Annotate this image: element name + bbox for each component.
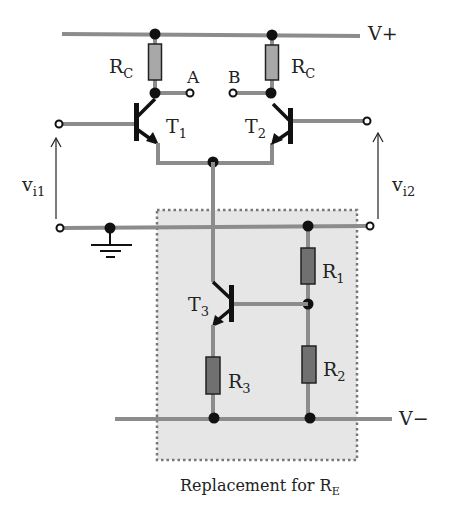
positive-rail (62, 34, 360, 36)
node-dot (266, 88, 277, 99)
label-t3: T3 (188, 295, 209, 318)
label-vi1: vi1 (22, 175, 45, 198)
resistor-rc-left (149, 44, 162, 80)
replacement-box (157, 210, 357, 460)
label-rc-right: RC (291, 57, 315, 80)
resistor-r2 (302, 346, 316, 383)
output-terminal-a[interactable] (187, 90, 194, 97)
label-rc-left: RC (109, 57, 133, 80)
ground-terminal-right[interactable] (367, 223, 374, 230)
caption: Replacement for RE (180, 476, 340, 498)
label-r3: R3 (228, 372, 251, 395)
output-terminal-b[interactable] (230, 90, 237, 97)
node-dot (150, 29, 161, 40)
label-positive-rail: V+ (368, 24, 398, 43)
transistor-t3-base (229, 285, 234, 322)
label-vi2: vi2 (392, 175, 415, 198)
label-output-b: B (228, 69, 241, 86)
node-dot (303, 221, 314, 232)
label-t1: T1 (166, 117, 187, 140)
node-dot (150, 88, 161, 99)
resistor-r1 (301, 248, 315, 284)
label-r1: R1 (322, 262, 345, 285)
input-terminal-2[interactable] (364, 118, 371, 125)
node-dot (209, 413, 220, 424)
input-terminal-1[interactable] (56, 121, 63, 128)
label-t2: T2 (245, 117, 266, 140)
ground-terminal-left[interactable] (57, 225, 64, 232)
node-dot (305, 413, 316, 424)
circuit-diagram (0, 0, 450, 515)
label-r2: R2 (323, 360, 346, 383)
resistor-rc-right (266, 45, 279, 80)
emitter-arrow-icon (271, 133, 283, 145)
node-dot (267, 30, 278, 41)
label-negative-rail: V− (399, 409, 429, 428)
transistor-t2-base (288, 108, 293, 144)
resistor-r3 (206, 357, 220, 394)
transistor-t1-base (134, 103, 139, 141)
label-output-a: A (187, 69, 199, 86)
